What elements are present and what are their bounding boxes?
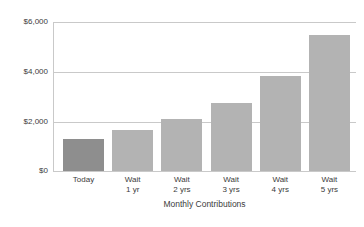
x-tick-label-wait-2-yrs-line1: Wait	[161, 175, 202, 185]
x-tick-label-wait-4-yrs-line2: 4 yrs	[260, 185, 301, 195]
x-axis-title: Monthly Contributions	[53, 199, 356, 209]
bar-series	[53, 22, 356, 171]
x-tick-label-wait-5-yrs: Wait 5 yrs	[309, 175, 350, 195]
x-tick-label-wait-1-yr-line1: Wait	[112, 175, 153, 185]
bar-slot-today	[63, 22, 104, 171]
bar-slot-wait-1-yr	[112, 22, 153, 171]
x-tick-label-wait-2-yrs-line2: 2 yrs	[161, 185, 202, 195]
y-tick-label-0: $0	[4, 167, 48, 175]
x-tick-label-wait-3-yrs-line2: 3 yrs	[211, 185, 252, 195]
bar-slot-wait-5-yrs	[309, 22, 350, 171]
y-tick-label-4000: $4,000	[4, 68, 48, 76]
bar-slot-wait-2-yrs	[161, 22, 202, 171]
gridline-0-baseline	[53, 171, 356, 172]
bar-wait-5-yrs	[309, 35, 350, 171]
bar-slot-wait-4-yrs	[260, 22, 301, 171]
bar-wait-3-yrs	[211, 103, 252, 172]
x-tick-label-wait-3-yrs-line1: Wait	[211, 175, 252, 185]
y-tick-label-2000: $2,000	[4, 118, 48, 126]
x-tick-label-wait-1-yr: Wait 1 yr	[112, 175, 153, 195]
x-tick-label-wait-4-yrs: Wait 4 yrs	[260, 175, 301, 195]
x-tick-label-wait-4-yrs-line1: Wait	[260, 175, 301, 185]
x-tick-label-today-line1: Today	[63, 175, 104, 185]
x-axis-tick-labels: Today Wait 1 yr Wait 2 yrs Wait 3 yrs Wa…	[53, 175, 356, 195]
x-tick-label-wait-3-yrs: Wait 3 yrs	[211, 175, 252, 195]
x-tick-label-wait-1-yr-line2: 1 yr	[112, 185, 153, 195]
x-tick-label-wait-5-yrs-line2: 5 yrs	[309, 185, 350, 195]
bar-wait-4-yrs	[260, 76, 301, 171]
bar-wait-1-yr	[112, 130, 153, 171]
bar-today	[63, 139, 104, 171]
bar-wait-2-yrs	[161, 119, 202, 171]
bar-chart: $6,000 $4,000 $2,000 $0	[0, 0, 364, 227]
y-tick-label-6000: $6,000	[4, 18, 48, 26]
x-tick-label-today: Today	[63, 175, 104, 195]
bar-slot-wait-3-yrs	[211, 22, 252, 171]
x-tick-label-wait-5-yrs-line1: Wait	[309, 175, 350, 185]
x-tick-label-wait-2-yrs: Wait 2 yrs	[161, 175, 202, 195]
plot-area	[53, 22, 356, 171]
